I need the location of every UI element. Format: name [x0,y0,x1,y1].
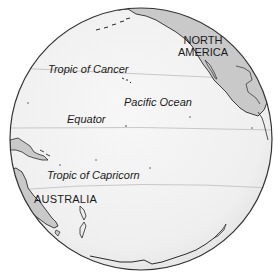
label-pacific-ocean: Pacific Ocean [124,97,192,108]
label-north: NORTH [178,34,228,46]
label-tropic-of-cancer: Tropic of Cancer [48,64,129,75]
island-dot [27,102,28,103]
globe-graphic [0,0,274,276]
label-australia: AUSTRALIA [34,194,97,205]
island-dot [189,116,190,117]
label-north-america: NORTH AMERICA [178,34,228,58]
label-america: AMERICA [178,46,228,58]
island-dot [95,159,96,160]
globe-map: NORTH AMERICA Tropic of Cancer Pacific O… [0,0,274,276]
island-dot [251,127,252,128]
label-equator: Equator [67,114,106,125]
island-dot [125,125,127,127]
island-dot [59,164,60,165]
label-tropic-of-capricorn: Tropic of Capricorn [47,170,140,181]
island-dot [149,167,150,168]
